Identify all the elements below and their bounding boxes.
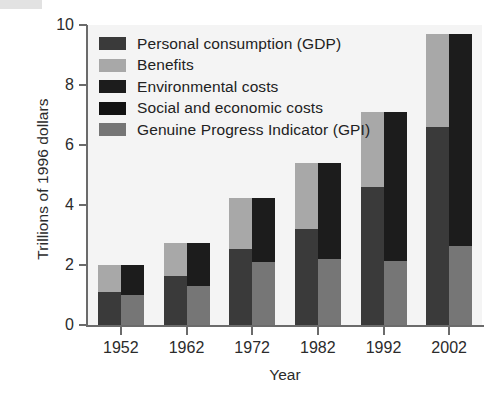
legend-swatch-icon	[99, 123, 126, 136]
x-tick-label: 1982	[283, 339, 353, 357]
chart-legend: Personal consumption (GDP)BenefitsEnviro…	[99, 33, 370, 141]
x-axis-title: Year	[88, 366, 482, 384]
y-tick-mark	[79, 204, 87, 206]
x-tick-mark	[448, 327, 450, 335]
legend-item: Benefits	[99, 55, 370, 77]
bar-segment	[98, 292, 121, 325]
x-tick-mark	[317, 327, 319, 335]
x-tick-label: 1962	[152, 339, 222, 357]
x-tick-label: 1992	[349, 339, 419, 357]
bar-segment	[295, 163, 318, 229]
y-tick-label: 4	[40, 196, 74, 214]
x-tick-mark	[251, 327, 253, 335]
bar-segment	[187, 243, 210, 287]
bar-segment	[229, 198, 252, 249]
y-tick-label: 6	[40, 136, 74, 154]
y-tick-mark	[79, 264, 87, 266]
y-tick-label: 10	[40, 16, 74, 34]
bar-segment	[384, 261, 407, 326]
y-tick-mark	[79, 84, 87, 86]
y-axis-line	[86, 25, 88, 326]
legend-item: Personal consumption (GDP)	[99, 33, 370, 55]
bar-segment	[164, 243, 187, 276]
x-tick-mark	[186, 327, 188, 335]
y-tick-mark	[79, 144, 87, 146]
legend-label: Personal consumption (GDP)	[137, 35, 341, 53]
x-tick-mark	[120, 327, 122, 335]
chart-figure: Trillions of 1996 dollars 0246810 195219…	[0, 0, 499, 400]
bar-segment	[164, 276, 187, 326]
bar-segment	[252, 198, 275, 263]
legend-swatch-icon	[99, 102, 126, 115]
bar-segment	[426, 34, 449, 127]
y-tick-label: 8	[40, 76, 74, 94]
y-tick-mark	[79, 24, 87, 26]
x-tick-label: 2002	[414, 339, 484, 357]
scan-artifact	[0, 0, 42, 9]
legend-swatch-icon	[99, 59, 126, 72]
x-axis-line	[86, 325, 484, 327]
legend-label: Social and economic costs	[137, 99, 323, 117]
bar-segment	[361, 187, 384, 325]
bar-segment	[384, 112, 407, 261]
bar-segment	[426, 127, 449, 325]
bar-segment	[449, 246, 472, 326]
legend-label: Genuine Progress Indicator (GPI)	[137, 121, 370, 139]
legend-item: Social and economic costs	[99, 98, 370, 120]
bar-segment	[121, 265, 144, 295]
bar-segment	[449, 34, 472, 246]
legend-swatch-icon	[99, 80, 126, 93]
y-tick-label: 2	[40, 256, 74, 274]
bar-segment	[318, 259, 341, 325]
legend-item: Genuine Progress Indicator (GPI)	[99, 119, 370, 141]
legend-swatch-icon	[99, 37, 126, 50]
x-tick-label: 1952	[86, 339, 156, 357]
bar-segment	[318, 163, 341, 259]
bar-segment	[229, 249, 252, 326]
y-tick-label: 0	[40, 316, 74, 334]
legend-label: Benefits	[137, 56, 194, 74]
x-tick-mark	[383, 327, 385, 335]
y-tick-mark	[79, 324, 87, 326]
legend-label: Environmental costs	[137, 78, 278, 96]
bar-segment	[187, 286, 210, 325]
bar-segment	[252, 262, 275, 325]
bar-segment	[98, 265, 121, 292]
bar-segment	[121, 295, 144, 325]
legend-item: Environmental costs	[99, 76, 370, 98]
bar-segment	[295, 229, 318, 325]
x-tick-label: 1972	[217, 339, 287, 357]
